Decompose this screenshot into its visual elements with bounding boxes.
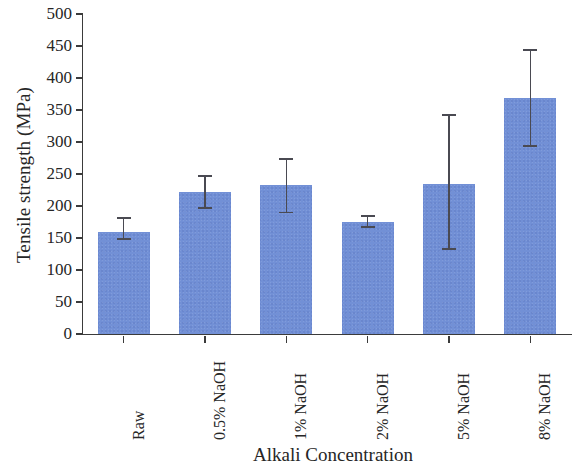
- y-tick-label: 200: [8, 197, 72, 214]
- y-tick-mark: [76, 13, 82, 14]
- y-tick-mark: [76, 141, 82, 142]
- x-axis-line: [82, 334, 572, 335]
- x-tick-label: 8% NaOH: [537, 373, 553, 440]
- y-tick-mark: [76, 173, 82, 174]
- y-tick-label: 350: [8, 101, 72, 118]
- y-tick-label: 500: [8, 5, 72, 22]
- x-axis-title: Alkali Concentration: [90, 444, 576, 466]
- error-bar-line: [204, 176, 206, 208]
- y-tick-label: 300: [8, 133, 72, 150]
- error-bar-cap-lower: [523, 145, 537, 147]
- error-bar-line: [530, 50, 532, 146]
- y-tick-label: 0: [8, 325, 72, 342]
- y-tick-label: 450: [8, 37, 72, 54]
- x-tick-label: 2% NaOH: [375, 373, 391, 440]
- error-bar-cap-upper: [279, 158, 293, 160]
- error-bar-cap-lower: [442, 248, 456, 250]
- error-bar-cap-upper: [361, 215, 375, 217]
- y-tick-mark: [76, 205, 82, 206]
- bar: [179, 192, 231, 334]
- x-tick-mark: [448, 336, 449, 343]
- y-tick-mark: [76, 237, 82, 238]
- tensile-strength-bar-chart: Tensile strength (MPa) 05010015020025030…: [0, 0, 576, 468]
- y-tick-mark: [76, 77, 82, 78]
- y-tick-mark: [76, 109, 82, 110]
- x-tick-mark: [123, 336, 124, 343]
- error-bar-line: [123, 218, 125, 239]
- error-bar-cap-lower: [117, 238, 131, 240]
- y-tick-mark: [76, 269, 82, 270]
- bar: [342, 222, 394, 334]
- y-tick-label: 400: [8, 69, 72, 86]
- error-bar-cap-lower: [279, 212, 293, 214]
- error-bar-cap-upper: [442, 114, 456, 116]
- x-tick-mark: [530, 336, 531, 343]
- y-tick-label: 150: [8, 229, 72, 246]
- error-bar-cap-upper: [117, 217, 131, 219]
- error-bar-cap-upper: [523, 49, 537, 51]
- error-bar-cap-lower: [198, 207, 212, 209]
- y-tick-mark: [76, 301, 82, 302]
- y-tick-label: 250: [8, 165, 72, 182]
- y-axis-line: [82, 13, 83, 335]
- x-tick-label: 1% NaOH: [293, 373, 309, 440]
- y-tick-mark: [76, 333, 82, 334]
- x-tick-label: 5% NaOH: [456, 373, 472, 440]
- y-tick-label: 50: [8, 293, 72, 310]
- x-tick-label: Raw: [131, 411, 147, 440]
- y-tick-label: 100: [8, 261, 72, 278]
- error-bar-line: [286, 159, 288, 212]
- error-bar-cap-upper: [198, 175, 212, 177]
- x-tick-label: 0.5% NaOH: [212, 361, 228, 440]
- error-bar-line: [448, 115, 450, 249]
- y-tick-mark: [76, 45, 82, 46]
- x-tick-mark: [204, 336, 205, 343]
- bar: [98, 232, 150, 334]
- error-bar-cap-lower: [361, 226, 375, 228]
- x-tick-mark: [367, 336, 368, 343]
- x-tick-mark: [286, 336, 287, 343]
